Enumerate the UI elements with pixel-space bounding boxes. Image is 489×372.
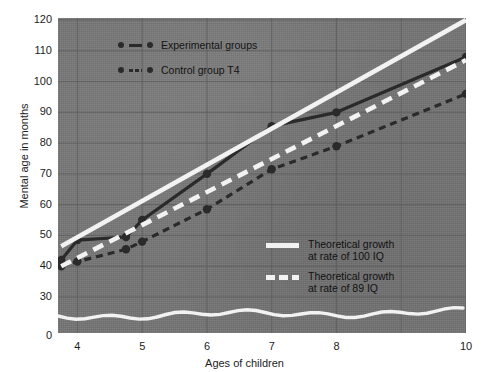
legend-marker-icon xyxy=(147,67,153,73)
x-tick-label: 6 xyxy=(187,341,227,352)
legend-solid-line-icon xyxy=(129,44,142,47)
y-tick-label: 30 xyxy=(2,291,52,302)
legend-item-control: Control group T4 xyxy=(118,65,240,76)
y-tick-label: 40 xyxy=(2,260,52,271)
y-tick-label: 100 xyxy=(2,76,52,87)
legend-marker-icon xyxy=(118,42,124,48)
y-tick-label: 50 xyxy=(2,229,52,240)
legend-item-theoretical-89iq: Theoretical growth at rate of 89 IQ xyxy=(266,270,394,295)
y-tick-label: 120 xyxy=(2,14,52,25)
y-axis-title: Mental age in months xyxy=(18,86,30,226)
legend-item-experimental: Experimental groups xyxy=(118,40,257,51)
y-tick-label: 0 xyxy=(2,330,52,341)
x-tick-label: 5 xyxy=(122,341,162,352)
legend-marker-icon xyxy=(147,42,153,48)
legend-label-line1: Theoretical growth xyxy=(308,238,394,250)
legend-solid-line-icon xyxy=(266,243,299,248)
x-tick-label: 4 xyxy=(57,341,97,352)
legend-label: Theoretical growth at rate of 100 IQ xyxy=(308,238,394,263)
x-axis-title: Ages of children xyxy=(0,357,489,369)
legend-dashed-line-icon xyxy=(129,69,142,72)
legend-label-line2: at rate of 89 IQ xyxy=(308,282,394,294)
x-tick-label: 8 xyxy=(316,341,356,352)
legend-label: Experimental groups xyxy=(158,40,257,51)
chart-figure: 120110100908070605040300 Mental age in m… xyxy=(0,0,489,372)
legend-label-line1: Theoretical growth xyxy=(308,270,394,282)
axis-break-wave xyxy=(58,308,463,320)
legend-marker-icon xyxy=(118,67,124,73)
legend-label-line2: at rate of 100 IQ xyxy=(308,250,394,262)
data-series-layer xyxy=(58,20,466,270)
legend-item-theoretical-100iq: Theoretical growth at rate of 100 IQ xyxy=(266,238,394,263)
legend-label: Control group T4 xyxy=(158,65,240,76)
x-tick-label: 10 xyxy=(446,341,486,352)
plot-area: Experimental groups Control group T4 The… xyxy=(58,18,466,333)
x-tick-label: 7 xyxy=(252,341,292,352)
legend-label: Theoretical growth at rate of 89 IQ xyxy=(308,270,394,295)
y-tick-label: 110 xyxy=(2,45,52,56)
legend-dashed-line-icon xyxy=(266,275,299,280)
